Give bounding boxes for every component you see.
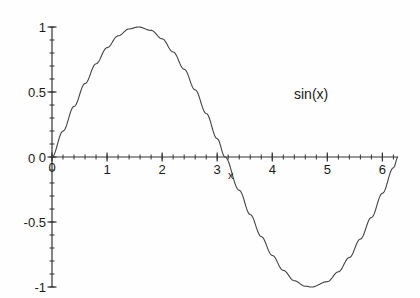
y-tick-label: 1: [0, 21, 46, 34]
plot-area: [0, 0, 420, 298]
chart-figure: sin(x) x 0 10.50-0.5-10 123456: [0, 0, 420, 298]
x-tick-label: 3: [214, 163, 221, 176]
y-tick-label: -1: [0, 281, 46, 294]
y-tick-label-zero: 0: [28, 152, 35, 165]
y-tick-label: 0: [0, 151, 46, 164]
y-tick-label: 0.5: [0, 86, 46, 99]
series-label: sin(x): [294, 86, 328, 102]
x-tick-label: 1: [103, 163, 110, 176]
x-tick-label: 2: [159, 163, 166, 176]
x-tick-label: 5: [324, 163, 331, 176]
x-tick-label: 4: [269, 163, 276, 176]
x-tick-label-origin: 0: [48, 161, 55, 174]
x-tick-label: 6: [379, 163, 386, 176]
x-axis-title: x: [228, 169, 234, 181]
y-tick-label: -0.5: [0, 216, 46, 229]
